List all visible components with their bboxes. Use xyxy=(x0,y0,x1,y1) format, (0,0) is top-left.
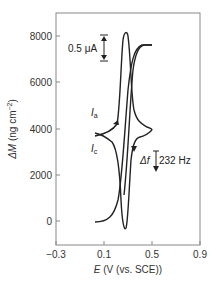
x-tick-label: 0.9 xyxy=(193,249,207,260)
x-tick-label: −0.3 xyxy=(46,249,66,260)
x-axis-title: E (V (vs. SCE)) xyxy=(94,264,162,275)
y-axis-title: ΔM (ng cm−2) xyxy=(6,99,18,160)
y-tick-label: 8000 xyxy=(30,31,53,42)
y-axis-ticks xyxy=(56,36,60,221)
y-tick-label: 2000 xyxy=(30,170,53,181)
current-scale-label: 0.5 μA xyxy=(68,43,97,54)
frequency-down-arrow-icon xyxy=(153,166,159,172)
frequency-delta-label: Δf xyxy=(139,155,151,166)
scale-down-arrow-icon xyxy=(101,55,107,60)
scale-up-arrow-icon xyxy=(101,36,107,41)
y-tick-label: 0 xyxy=(46,216,52,227)
cyclic-voltammogram-chart: −0.3 0.1 0.5 0.9 8000 6000 4000 2000 0 E… xyxy=(0,0,217,289)
ic-label: Ic xyxy=(91,143,98,155)
x-tick-label: 0.5 xyxy=(145,249,159,260)
x-axis-ticks xyxy=(56,241,200,245)
y-tick-label: 4000 xyxy=(30,124,53,135)
current-curve xyxy=(95,33,152,229)
frequency-scale-label: 232 Hz xyxy=(159,155,191,166)
x-tick-label: 0.1 xyxy=(97,249,111,260)
anodic-arrow-icon xyxy=(113,120,119,125)
y-tick-label: 6000 xyxy=(30,77,53,88)
ia-label: Ia xyxy=(91,107,98,119)
